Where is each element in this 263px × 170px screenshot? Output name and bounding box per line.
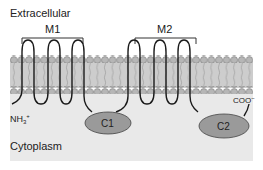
lipid-bilayer [10, 55, 253, 94]
m2-label: M2 [157, 23, 172, 35]
c2-label: C2 [217, 121, 230, 132]
m1-label: M1 [45, 23, 60, 35]
cytoplasm-label: Cytoplasm [10, 140, 62, 152]
membrane-protein-diagram: Extracellular M1 M2 C1 C2 Cytoplasm NH3+… [0, 0, 263, 170]
extracellular-label: Extracellular [10, 7, 71, 19]
c1-label: C1 [101, 118, 114, 129]
